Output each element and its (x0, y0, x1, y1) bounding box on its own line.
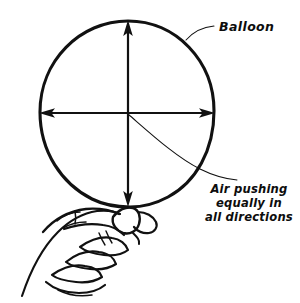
caption-line-3: all directions (205, 210, 293, 224)
caption-line-2: equally in (216, 196, 282, 210)
diagram-canvas: Balloon Air pushing equally in all direc… (0, 0, 300, 303)
balloon-label: Balloon (219, 19, 274, 34)
caption-line-1: Air pushing (209, 182, 287, 196)
figure-background (0, 0, 300, 303)
balloon-diagram: Balloon Air pushing equally in all direc… (0, 0, 300, 303)
knuckle-tick-1 (75, 211, 76, 224)
